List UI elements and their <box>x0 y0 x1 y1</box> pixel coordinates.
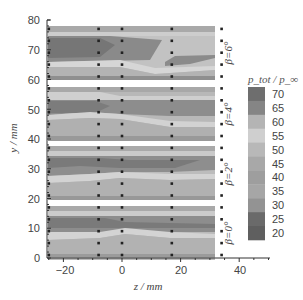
panel-beta-6 <box>48 26 215 80</box>
probe-dot <box>171 230 174 233</box>
probe-dot <box>171 63 174 66</box>
probe-dot <box>220 159 223 162</box>
probe-dot <box>171 254 174 257</box>
probe-dot <box>171 135 174 138</box>
probe-dot <box>220 135 223 138</box>
probe-dot <box>48 99 51 102</box>
probe-dot <box>97 40 100 43</box>
probe-dot <box>171 242 174 245</box>
probe-dot <box>48 135 51 138</box>
probe-dot <box>121 87 124 90</box>
probe-dot <box>121 218 124 221</box>
colorbar-level-label: 20 <box>272 227 284 239</box>
probe-dot <box>220 254 223 257</box>
probe-dot <box>121 182 124 185</box>
probe-dot <box>171 28 174 31</box>
probe-dot <box>220 75 223 78</box>
probe-dot <box>48 218 51 221</box>
x-tick-neg20: −20 <box>56 264 75 276</box>
probe-dot <box>97 206 100 209</box>
probe-dot <box>121 75 124 78</box>
probe-dot <box>171 123 174 126</box>
probe-dot <box>48 206 51 209</box>
probe-dot <box>220 206 223 209</box>
probe-dot <box>121 51 124 54</box>
probe-dot <box>97 230 100 233</box>
probe-dot <box>97 218 100 221</box>
probe-dot <box>121 147 124 150</box>
x-tick-0: 0 <box>119 264 125 276</box>
probe-dot <box>97 242 100 245</box>
probe-dot <box>121 242 124 245</box>
probe-dot <box>97 135 100 138</box>
probe-dot <box>48 87 51 90</box>
beta-4-label: β=4° <box>222 102 234 126</box>
probe-dot <box>97 75 100 78</box>
colorbar <box>248 87 265 240</box>
probe-dot <box>171 206 174 209</box>
colorbar-swatch <box>248 143 265 157</box>
probe-dot <box>121 254 124 257</box>
probe-dot <box>121 28 124 31</box>
probe-dot <box>97 159 100 162</box>
y-tick-60: 60 <box>28 74 40 86</box>
probe-dot <box>48 51 51 54</box>
probe-dot <box>48 159 51 162</box>
probe-dot <box>48 28 51 31</box>
probe-dot <box>48 170 51 173</box>
probe-dot <box>97 123 100 126</box>
y-tick-0: 0 <box>34 252 40 264</box>
probe-dot <box>171 182 174 185</box>
colorbar-level-label: 45 <box>272 158 284 170</box>
probe-dot <box>121 194 124 197</box>
colorbar-level-label: 35 <box>272 185 284 197</box>
y-tick-30: 30 <box>28 163 40 175</box>
x-axis-label: z / mm <box>133 280 163 292</box>
probe-dot <box>171 194 174 197</box>
colorbar-level-label: 65 <box>272 102 284 114</box>
probe-dot <box>121 99 124 102</box>
probe-dot <box>48 147 51 150</box>
x-tick-40: 40 <box>234 264 246 276</box>
probe-dot <box>220 194 223 197</box>
y-tick-50: 50 <box>28 104 40 116</box>
colorbar-swatch <box>248 226 265 240</box>
colorbar-swatch <box>248 170 265 184</box>
y-tick-40: 40 <box>28 133 40 145</box>
probe-dot <box>97 182 100 185</box>
probe-dot <box>48 254 51 257</box>
x-tick-20: 20 <box>175 264 187 276</box>
colorbar-title: p_tot / p_∞ <box>247 73 298 85</box>
colorbar-swatch <box>248 87 265 101</box>
probe-dot <box>48 194 51 197</box>
probe-dot <box>171 40 174 43</box>
probe-dot <box>97 87 100 90</box>
probe-dot <box>48 242 51 245</box>
colorbar-labels: 7065605550454035302520 <box>272 88 284 239</box>
contour-figure: 0 10 20 30 40 50 60 70 80 −20 0 20 40 z … <box>0 0 303 300</box>
colorbar-swatch <box>248 157 265 171</box>
colorbar-swatch <box>248 184 265 198</box>
colorbar-level-label: 60 <box>272 116 284 128</box>
probe-dot <box>121 230 124 233</box>
probe-dot <box>171 218 174 221</box>
probe-dot <box>97 63 100 66</box>
probe-dot <box>220 28 223 31</box>
probe-dot <box>171 111 174 114</box>
probe-dot <box>171 51 174 54</box>
colorbar-level-label: 55 <box>272 130 284 142</box>
probe-dot <box>121 40 124 43</box>
probe-dot <box>220 99 223 102</box>
probe-dot <box>97 194 100 197</box>
colorbar-swatch <box>248 101 265 115</box>
probe-dot <box>97 170 100 173</box>
probe-dot <box>48 63 51 66</box>
y-tick-70: 70 <box>28 44 40 56</box>
probe-dot <box>97 254 100 257</box>
probe-dot <box>121 123 124 126</box>
beta-6-label: β=6° <box>222 41 234 65</box>
colorbar-level-label: 70 <box>272 88 284 100</box>
probe-dot <box>171 159 174 162</box>
probe-dot <box>171 147 174 150</box>
probe-dot <box>48 40 51 43</box>
